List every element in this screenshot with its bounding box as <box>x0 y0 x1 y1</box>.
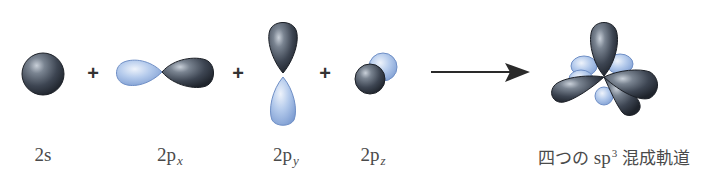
label-2pz-sub: z <box>380 153 385 168</box>
orbital-2pz-icon <box>355 53 397 94</box>
label-2py-main: 2p <box>273 144 292 165</box>
orbital-2s-icon <box>22 53 64 95</box>
label-2px-sub: x <box>177 153 183 168</box>
label-sp3-sup: 3 <box>612 147 618 159</box>
label-sp3-suffix: 混成軌道 <box>622 148 690 168</box>
label-2px-main: 2p <box>157 144 176 165</box>
label-2s: 2s <box>35 144 52 166</box>
plus-operator-1: + <box>87 62 99 85</box>
label-2px: 2px <box>157 144 183 166</box>
orbital-2py-icon <box>269 23 297 126</box>
label-sp3-hybrid: 四つの sp3 混成軌道 <box>538 144 690 169</box>
label-2s-main: 2s <box>35 144 52 165</box>
label-2pz: 2pz <box>360 144 385 166</box>
label-2py-sub: y <box>293 153 299 168</box>
plus-operator-3: + <box>319 62 331 85</box>
sp3-hybrid-orbitals-icon <box>552 23 658 116</box>
orbital-2px-icon <box>117 58 214 87</box>
label-sp3-prefix: 四つの <box>538 148 589 168</box>
arrow-right-icon <box>431 63 530 82</box>
plus-operator-2: + <box>232 62 244 85</box>
label-2py: 2py <box>273 144 299 166</box>
label-2pz-main: 2p <box>360 144 379 165</box>
label-sp3-sp: sp <box>594 147 611 168</box>
